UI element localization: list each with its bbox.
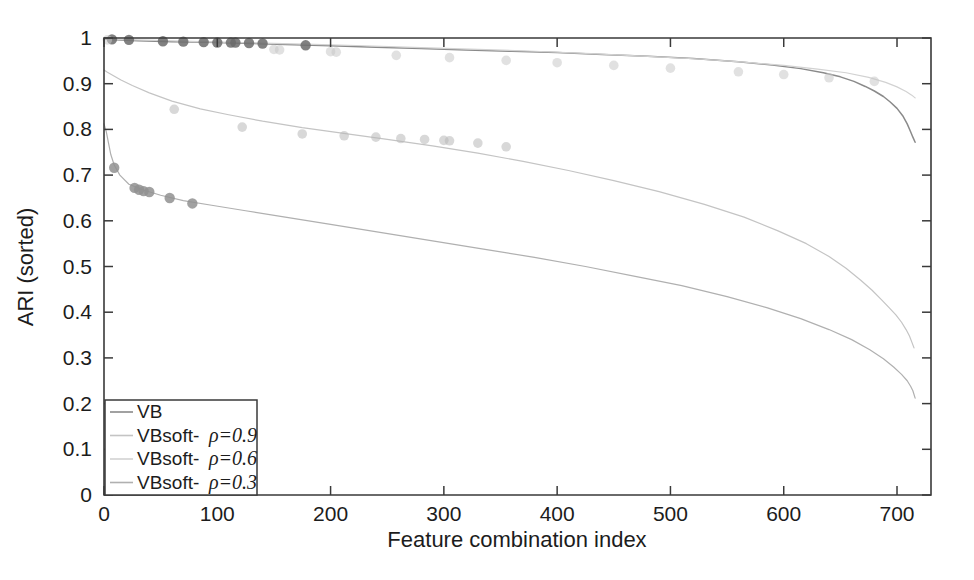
series-line-3 (104, 124, 915, 398)
y-tick-label: 0.8 (63, 117, 92, 140)
x-tick-label: 700 (879, 502, 914, 525)
data-point-marker (165, 193, 175, 203)
ari-sorted-line-chart: 0100200300400500600700 00.10.20.30.40.50… (0, 0, 974, 580)
data-point-marker (445, 136, 455, 146)
data-point-marker (779, 70, 789, 80)
data-point-marker (870, 77, 880, 87)
data-point-marker (396, 134, 406, 144)
data-point-marker (300, 40, 310, 50)
data-point-marker (257, 38, 267, 48)
y-tick-label: 0.7 (63, 163, 92, 186)
data-point-marker (391, 51, 401, 61)
y-tick-label: 0.1 (63, 437, 92, 460)
y-tick-label: 0.5 (63, 255, 92, 278)
data-point-marker (169, 104, 179, 114)
markers-layer (103, 34, 880, 208)
y-tick-label: 0.6 (63, 209, 92, 232)
data-point-marker (109, 163, 119, 173)
data-point-marker (230, 37, 240, 47)
data-point-marker (187, 198, 197, 208)
data-point-marker (501, 142, 511, 152)
data-point-marker (473, 138, 483, 148)
x-tick-label: 100 (200, 502, 235, 525)
data-point-marker (144, 187, 154, 197)
data-point-marker (371, 132, 381, 142)
y-tick-label: 1 (80, 26, 92, 49)
data-point-marker (552, 58, 562, 68)
y-tick-label: 0 (80, 483, 92, 506)
data-point-marker (666, 63, 676, 73)
y-axis-label: ARI (sorted) (13, 208, 38, 327)
figure-container: 0100200300400500600700 00.10.20.30.40.50… (0, 0, 974, 580)
x-tick-label: 200 (313, 502, 348, 525)
x-tick-label: 0 (98, 502, 110, 525)
data-point-marker (824, 73, 834, 83)
x-tick-label: 600 (766, 502, 801, 525)
x-axis-label: Feature combination index (387, 527, 646, 552)
legend-label-0: VB (137, 401, 162, 422)
data-point-marker (420, 135, 430, 145)
legend-label-2: VBsoft- (137, 448, 199, 469)
data-point-marker (244, 38, 254, 48)
data-point-marker (609, 61, 619, 71)
data-point-marker (339, 131, 349, 141)
legend-label-3: VBsoft- (137, 472, 199, 493)
y-tick-label: 0.3 (63, 346, 92, 369)
data-point-marker (734, 67, 744, 77)
data-point-marker (237, 122, 247, 132)
data-point-marker (445, 53, 455, 63)
legend-rho-value-3: ρ=0.3 (208, 471, 257, 494)
x-tick-label: 300 (426, 502, 461, 525)
y-tick-label: 0.4 (63, 300, 93, 323)
series-line-0 (104, 39, 915, 142)
data-point-marker (501, 56, 511, 66)
legend-rho-value-2: ρ=0.6 (208, 447, 257, 470)
y-tick-label: 0.2 (63, 392, 92, 415)
series-layer (104, 38, 915, 398)
data-point-marker (297, 129, 307, 139)
y-tick-label: 0.9 (63, 72, 92, 95)
data-point-marker (275, 45, 285, 55)
x-tick-label: 500 (653, 502, 688, 525)
legend-rho-value-1: ρ=0.9 (208, 424, 257, 447)
legend-label-1: VBsoft- (137, 425, 199, 446)
data-point-marker (124, 35, 134, 45)
plot-area (103, 34, 916, 398)
x-tick-label: 400 (540, 502, 575, 525)
series-line-1 (104, 70, 914, 348)
data-point-marker (331, 47, 341, 57)
legend: VBVBsoft-ρ=0.9VBsoft-ρ=0.6VBsoft-ρ=0.3 (105, 400, 257, 495)
